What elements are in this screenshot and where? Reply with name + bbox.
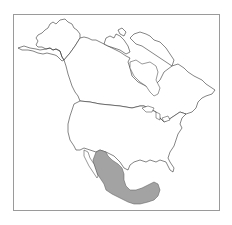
north-america-map — [0, 0, 232, 225]
